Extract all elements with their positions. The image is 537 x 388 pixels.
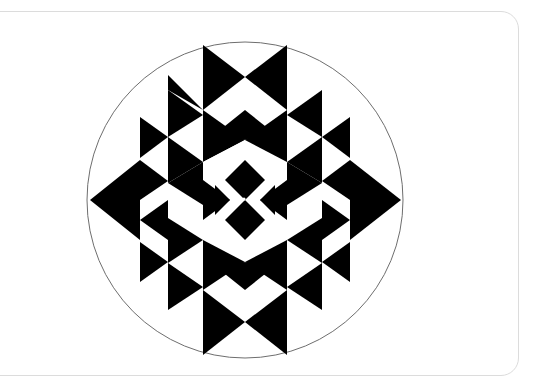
mandala-figure bbox=[0, 0, 537, 388]
center-dot bbox=[242, 197, 245, 200]
